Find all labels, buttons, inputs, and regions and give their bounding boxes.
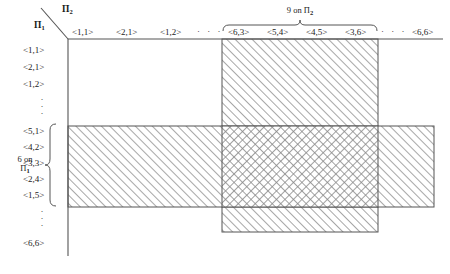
axis-label-pi1: Π1	[34, 20, 45, 31]
column-header-group-2: <4,5>	[306, 27, 327, 37]
column-ellipsis-right: · · ·	[381, 26, 407, 36]
column-header-group-3: <3,6>	[345, 27, 366, 37]
column-header-2: <1,2>	[160, 27, 181, 37]
row-header-2: <1,2>	[23, 79, 44, 89]
column-ellipsis-left: · · ·	[197, 26, 223, 36]
column-header-group-0: <6,3>	[228, 27, 249, 37]
column-group-caption: 9 on Π2	[260, 6, 340, 16]
column-header-1: <2,1>	[116, 27, 137, 37]
row-header-group-4: <1,5>	[23, 190, 44, 200]
diagram-graphics	[0, 0, 450, 274]
axis-label-pi2: Π2	[62, 4, 73, 15]
row-header-0: <1,1>	[23, 45, 44, 55]
column-header-group-1: <5,4>	[267, 27, 288, 37]
row-header-group-0: <5,1>	[23, 126, 44, 136]
row-group-caption: 6 on Π1	[3, 155, 47, 174]
row-header-group-3: <2,4>	[23, 174, 44, 184]
row-header-1: <2,1>	[23, 62, 44, 72]
cross-hatched-intersection	[222, 126, 378, 207]
column-header-last: <6,6>	[412, 27, 433, 37]
row-header-group-1: <4,2>	[23, 142, 44, 152]
row-ellipsis-bottom: · · ·	[35, 208, 49, 229]
diagram-canvas: Π2 Π1 <1,1> <2,1> <1,2> · · · <6,3> <5,4…	[0, 0, 450, 274]
row-ellipsis-top: · · ·	[35, 96, 49, 117]
column-header-0: <1,1>	[72, 27, 93, 37]
row-header-last: <6,6>	[23, 238, 44, 248]
